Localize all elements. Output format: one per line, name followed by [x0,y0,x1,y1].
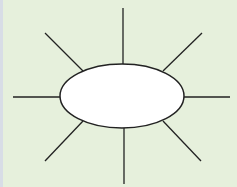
spoke-bottom-left [45,121,83,161]
diagram-svg [0,0,237,187]
spoke-bottom-right [163,121,201,161]
center-node-ellipse [60,64,184,128]
spider-diagram [0,0,237,187]
spoke-top-left [45,33,83,71]
spoke-top-right [163,33,202,71]
